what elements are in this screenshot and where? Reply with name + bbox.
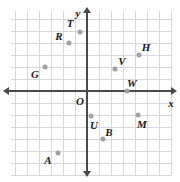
data-point-g [43,65,48,70]
gridline-horizontal [11,163,171,164]
point-label-u: U [90,120,98,131]
point-label-w: W [127,78,137,89]
point-label-b: B [105,127,112,138]
y-axis [86,12,88,172]
gridline-horizontal [11,139,171,140]
point-label-g: G [31,69,39,80]
gridline-horizontal [11,55,171,56]
x-axis-right-arrow [171,87,177,95]
data-point-v [113,67,118,72]
point-label-r: R [55,31,62,42]
data-point-r [67,41,72,46]
origin-label: O [76,96,84,107]
gridline-horizontal [11,19,171,20]
x-axis-left-arrow [3,87,9,95]
y-axis-label: y [76,8,81,19]
gridline-horizontal [11,103,171,104]
data-point-a [56,151,61,156]
data-point-h [137,53,142,58]
data-point-w [125,89,130,94]
data-point-t [78,30,83,35]
point-label-a: A [44,155,51,166]
point-label-h: H [142,42,151,53]
gridline-horizontal [11,151,171,152]
gridline-horizontal [11,31,171,32]
point-label-m: M [137,119,147,130]
gridline-horizontal [11,175,171,176]
x-axis-label: x [168,98,174,109]
point-label-t: T [67,18,74,29]
point-label-v: V [118,56,125,67]
y-axis-down-arrow [83,171,91,177]
x-axis [8,90,172,92]
coordinate-plane: x y O TRHVGWUMBA [0,0,180,182]
y-axis-up-arrow [83,7,91,13]
